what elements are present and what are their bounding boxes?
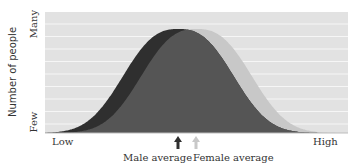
female-average-label: Female average	[193, 152, 274, 163]
y-tick-many: Many	[28, 10, 39, 39]
x-tick-low: Low	[52, 136, 74, 147]
female-average-arrow-icon	[192, 136, 200, 149]
male-average-label: Male average	[123, 152, 192, 163]
male-average-arrow-icon	[174, 136, 182, 149]
x-tick-high: High	[313, 136, 338, 147]
distribution-chart: Number of people Many Few Low High Male …	[0, 0, 355, 165]
y-tick-few: Few	[28, 111, 39, 132]
y-axis-label: Number of people	[7, 27, 18, 117]
